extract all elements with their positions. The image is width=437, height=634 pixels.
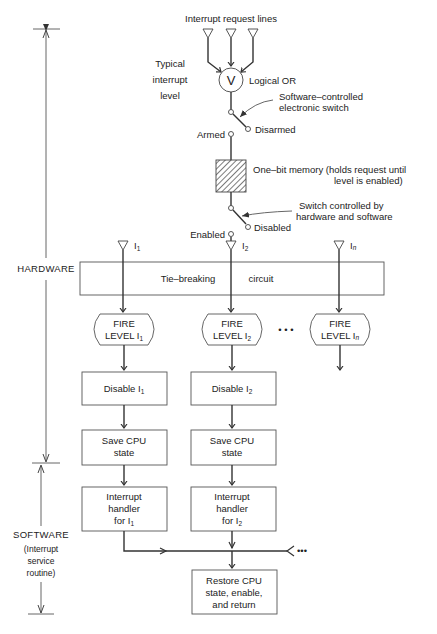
switch1-callout-arrow: [240, 100, 273, 117]
svg-text:Interrupt: Interrupt: [106, 491, 142, 502]
line-i2-triangle-icon: [226, 241, 236, 250]
line-i2-label: I2: [242, 240, 249, 252]
switch2-callout-arrow: [242, 211, 292, 216]
line-i1-triangle-icon: [118, 241, 128, 250]
svg-text:and return: and return: [212, 599, 255, 610]
software-note-3: routine): [27, 568, 56, 578]
svg-text:state: state: [222, 447, 243, 458]
one-bit-memory: [216, 160, 246, 192]
enabled-label: Enabled: [190, 229, 225, 240]
disable-i2-label: Disable I2: [212, 383, 253, 395]
software-note-1: (Interrupt: [24, 544, 59, 554]
fire-level-i1: FIRE LEVEL I1: [94, 314, 154, 345]
memory-label-1: One–bit memory (holds request until: [253, 164, 406, 175]
disarmed-contact: [246, 127, 251, 132]
armed-label: Armed: [197, 129, 225, 140]
switch1-label-2: electronic switch: [279, 102, 349, 113]
svg-text:LEVEL I2: LEVEL I2: [213, 330, 252, 342]
software-bracket: SOFTWARE (Interrupt service routine): [13, 465, 69, 614]
interrupt-request-lines-title: Interrupt request lines: [185, 13, 277, 24]
svg-text:FIRE: FIRE: [113, 318, 135, 329]
disarmed-label: Disarmed: [255, 124, 296, 135]
switch2-label-2: hardware and software: [296, 211, 393, 222]
svg-text:handler: handler: [216, 503, 248, 514]
svg-text:state, enable,: state, enable,: [205, 587, 262, 598]
merge-ellipsis: •••: [297, 545, 307, 556]
typical-level-label-3: level: [160, 90, 180, 101]
priority-lines: I1 I2 In: [118, 240, 357, 252]
svg-text:state: state: [114, 447, 135, 458]
logical-or-label: Logical OR: [249, 75, 296, 86]
line-in-label: In: [350, 240, 357, 251]
hardware-label: HARDWARE: [17, 263, 74, 274]
svg-text:Interrupt: Interrupt: [214, 491, 250, 502]
svg-text:FIRE: FIRE: [329, 318, 351, 329]
circuit-label: circuit: [249, 273, 274, 284]
switch1-pivot: [229, 110, 234, 115]
fire-level-in: FIRE LEVEL In: [310, 314, 370, 345]
switch1-lever: [233, 114, 246, 127]
more-levels-ellipsis: • • •: [278, 324, 293, 335]
switch1-label-1: Software–controlled: [279, 91, 363, 102]
disabled-contact: [246, 225, 251, 230]
switch2-label-1: Switch controlled by: [299, 200, 384, 211]
svg-text:FIRE: FIRE: [221, 318, 243, 329]
or-symbol-icon: V: [227, 73, 236, 88]
svg-text:LEVEL In: LEVEL In: [321, 330, 360, 341]
svg-text:Restore CPU: Restore CPU: [206, 575, 262, 586]
svg-text:handler: handler: [108, 503, 140, 514]
typical-level-label-2: interrupt: [153, 74, 188, 85]
input-triangle-icon: [248, 29, 258, 38]
fire-level-i2: FIRE LEVEL I2: [202, 314, 262, 345]
request-line-1: [208, 38, 221, 72]
software-label: SOFTWARE: [13, 529, 69, 540]
typical-level-label-1: Typical: [155, 58, 185, 69]
switch2-lever: [233, 210, 246, 224]
hardware-bracket: HARDWARE: [17, 29, 74, 462]
svg-text:LEVEL I1: LEVEL I1: [105, 330, 144, 342]
disabled-label: Disabled: [254, 222, 291, 233]
svg-text:Save CPU: Save CPU: [210, 435, 254, 446]
request-line-inputs: [203, 29, 258, 72]
software-note-2: service: [28, 556, 55, 566]
input-triangle-icon: [203, 29, 213, 38]
interrupt-diagram: HARDWARE SOFTWARE (Interrupt service rou…: [0, 0, 437, 634]
merge-arrowhead-in-icon: [287, 546, 294, 556]
input-triangle-icon: [226, 29, 236, 38]
switch2-pivot: [229, 206, 234, 211]
memory-label-2: level is enabled): [334, 175, 403, 186]
line-in-triangle-icon: [334, 241, 344, 250]
enabled-contact: [229, 232, 234, 237]
request-line-3: [241, 38, 253, 72]
armed-contact: [229, 132, 234, 137]
disable-i1-label: Disable I1: [104, 383, 145, 395]
merge-line-i1: [124, 531, 232, 551]
svg-text:Save CPU: Save CPU: [102, 435, 146, 446]
tie-breaking-label: Tie–breaking: [161, 273, 216, 284]
line-i1-label: I1: [134, 240, 141, 252]
